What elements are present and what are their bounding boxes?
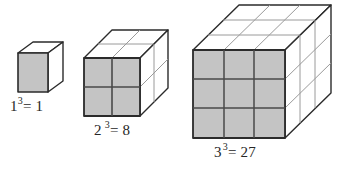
cube-2-label-exponent: 3: [105, 119, 110, 130]
cube-3-graphic: [193, 5, 331, 138]
cube-1-label-value: 1: [36, 98, 44, 114]
cube-1-front-face: [18, 53, 48, 92]
cubes-illustration: [0, 0, 345, 173]
cube-2-label-value: 8: [123, 122, 131, 138]
cube-3-label-value: 27: [241, 144, 256, 160]
cube-1-graphic: [18, 42, 63, 92]
cube-3-front-face: [193, 50, 285, 138]
cube-2-graphic: [84, 30, 168, 116]
cube-3-label-equals: =: [228, 144, 237, 160]
cube-1-label-exponent: 3: [18, 95, 23, 106]
cube-3-label-base: 3: [214, 144, 222, 160]
cube-2-label-base: 2: [94, 122, 102, 138]
cube-3-label: 33= 27: [214, 145, 256, 160]
cube-1-label: 13= 1: [10, 99, 43, 114]
cube-numbers-figure: 13= 1 23= 8 33= 27: [0, 0, 345, 173]
cube-2-label: 23= 8: [94, 123, 130, 138]
cube-1-label-base: 1: [10, 98, 18, 114]
cube-2-label-equals: =: [110, 122, 119, 138]
cube-3-label-exponent: 3: [223, 141, 228, 152]
cube-1-label-equals: =: [23, 98, 32, 114]
